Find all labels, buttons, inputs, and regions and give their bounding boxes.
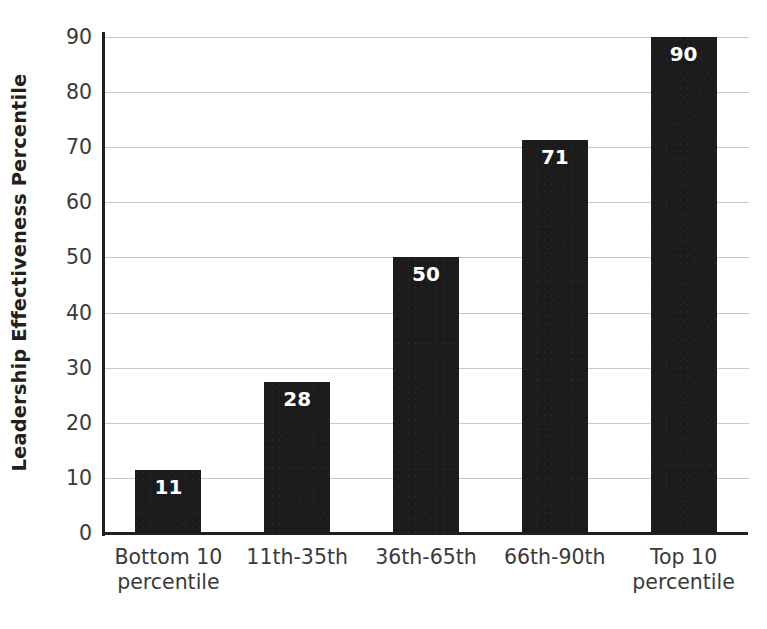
- bar: 50: [393, 257, 459, 533]
- y-axis-tick-label: 10: [66, 466, 92, 490]
- x-axis-tick-label-line: 36th-65th: [375, 545, 477, 569]
- bar: 90: [651, 37, 717, 533]
- y-axis-tick-label: 80: [66, 80, 92, 104]
- y-axis-tick-label: 70: [66, 135, 92, 159]
- x-axis-tick-label: Top 10percentile: [609, 545, 759, 595]
- y-axis-tick-label: 20: [66, 411, 92, 435]
- bar: 11: [135, 470, 201, 533]
- x-axis-tick-labels: Bottom 10percentile11th-35th36th-65th66t…: [104, 545, 748, 629]
- y-axis-tick-label: 30: [66, 356, 92, 380]
- x-axis-tick-label: 36th-65th: [351, 545, 501, 570]
- y-axis-tick-label: 50: [66, 245, 92, 269]
- bar-value-label: 50: [393, 264, 459, 284]
- x-axis-tick-label-line: Bottom 10: [115, 545, 223, 569]
- bar-value-label: 28: [264, 389, 330, 409]
- y-axis-tick-labels: 0102030405060708090: [44, 0, 98, 629]
- y-axis-tick-label: 60: [66, 190, 92, 214]
- x-axis-tick-label: 11th-35th: [222, 545, 372, 570]
- bar-chart: Leadership Effectiveness Percentile 0102…: [0, 0, 767, 629]
- bar: 28: [264, 382, 330, 533]
- bar-value-label: 90: [651, 44, 717, 64]
- bar-value-label: 71: [522, 147, 588, 167]
- x-axis-tick-label-line: Top 10: [650, 545, 717, 569]
- x-axis-tick-label-line: percentile: [93, 570, 243, 595]
- x-axis-tick-label: 66th-90th: [480, 545, 630, 570]
- x-axis-tick-label-line: 11th-35th: [246, 545, 348, 569]
- y-axis-tick-label: 90: [66, 25, 92, 49]
- x-axis-tick-label-line: percentile: [609, 570, 759, 595]
- bar: 71: [522, 140, 588, 533]
- bars-layer: 1128507190: [104, 37, 748, 533]
- x-axis-tick-label-line: 66th-90th: [504, 545, 606, 569]
- bar-value-label: 11: [135, 477, 201, 497]
- y-axis-title: Leadership Effectiveness Percentile: [0, 0, 40, 545]
- y-axis-title-text: Leadership Effectiveness Percentile: [9, 74, 32, 472]
- x-axis-tick-label: Bottom 10percentile: [93, 545, 243, 595]
- y-axis-tick-label: 0: [79, 521, 92, 545]
- y-axis-tick-label: 40: [66, 301, 92, 325]
